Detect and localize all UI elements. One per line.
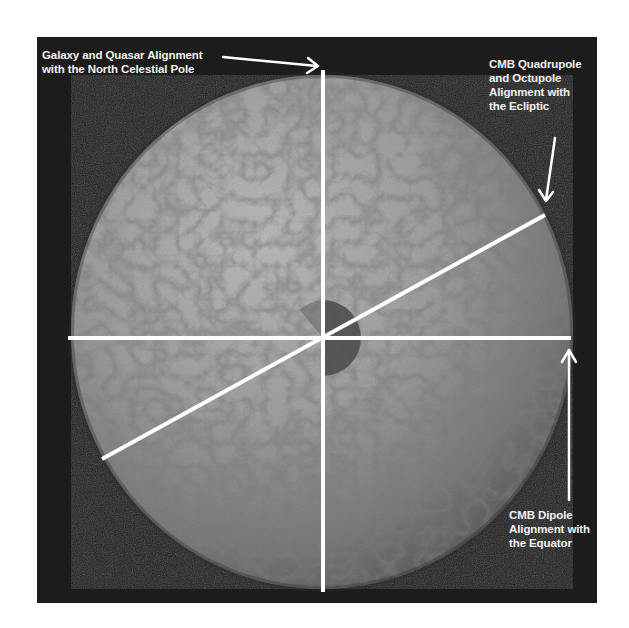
label-ecliptic-alignment: CMB Quadrupole and Octupole Alignment wi… [489,57,582,113]
arrow-ecliptic-icon [539,138,555,201]
label-north-celestial-pole: Galaxy and Quasar Alignment with the Nor… [42,48,202,76]
label-equator-alignment: CMB Dipole Alignment with the Equator [509,508,590,550]
arrow-north-pole-icon [223,57,318,73]
